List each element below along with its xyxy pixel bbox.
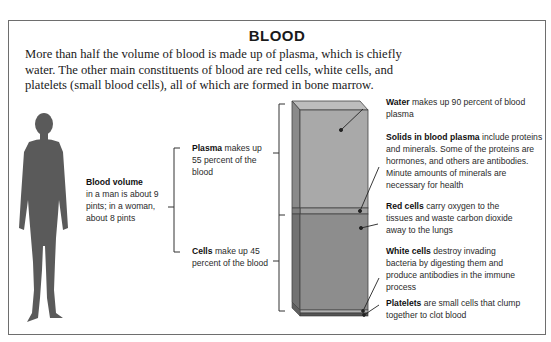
red-cells-heading: Red cells <box>386 201 424 211</box>
blood-volume-label: Blood volume in a man is about 9 pints; … <box>86 176 168 224</box>
blood-volume-heading: Blood volume <box>86 177 143 187</box>
bracket-parts <box>273 104 285 311</box>
cells-label: Cells make up 45 percent of the blood <box>192 245 272 269</box>
water-label: Water makes up 90 percent of blood plasm… <box>386 96 531 120</box>
blood-volume-text: in a man is about 9 pints; in a woman, a… <box>86 189 159 223</box>
cells-column <box>292 214 368 316</box>
white-cells-heading: White cells <box>386 246 431 256</box>
white-cells-label: White cells destroy invading bacteria by… <box>386 245 526 293</box>
plasma-label: Plasma makes up 55 percent of the blood <box>192 142 272 178</box>
plasma-heading: Plasma <box>192 143 222 153</box>
solids-label: Solids in blood plasma include proteins … <box>386 131 544 191</box>
human-silhouette-icon <box>19 113 68 322</box>
bracket-total <box>168 148 180 252</box>
water-heading: Water <box>386 97 410 107</box>
platelets-label: Platelets are small cells that clump tog… <box>386 297 531 321</box>
platelets-heading: Platelets <box>386 298 421 308</box>
solids-heading: Solids in blood plasma <box>386 132 480 142</box>
plasma-column <box>292 101 368 214</box>
cells-heading: Cells <box>192 246 213 256</box>
red-cells-label: Red cells carry oxygen to the tissues an… <box>386 200 526 236</box>
